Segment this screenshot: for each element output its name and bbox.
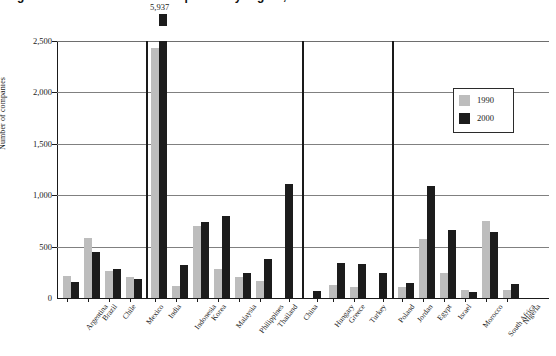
x-tick-south-africa (486, 299, 487, 302)
legend-swatch-1990-icon (459, 95, 470, 106)
bar-2000-india-overflow-stub (159, 14, 167, 26)
x-tick-chile (109, 299, 110, 302)
x-tick-china (289, 299, 290, 302)
x-tick-philippines (239, 299, 240, 302)
x-tick-argentina (67, 299, 68, 302)
x-tick-poland (383, 299, 384, 302)
x-label-malaysia: Malaysia (235, 303, 258, 330)
x-label-egypt: Egypt (436, 303, 453, 322)
x-tick-jordan (402, 299, 403, 302)
x-label-india: India (167, 303, 183, 320)
x-tick-brazil (88, 299, 89, 302)
bar-break-marker-india (157, 26, 169, 30)
x-tick-nigeria (507, 299, 508, 302)
legend-swatch-2000-icon (459, 113, 470, 124)
x-tick-israel (444, 299, 445, 302)
x-tick-greece (333, 299, 334, 302)
x-label-israel: Israel (456, 303, 473, 321)
x-tick-malaysia (218, 299, 219, 302)
x-tick-egypt (423, 299, 424, 302)
x-label-mexico: Mexico (145, 303, 166, 326)
x-tick-korea (197, 299, 198, 302)
india-2000-value-label: 5,937 (150, 3, 169, 12)
x-label-morocco: Morocco (482, 303, 505, 330)
x-label-nigeria: Nigeria (522, 303, 542, 326)
x-label-china: China (302, 303, 319, 322)
legend-label-1990: 1990 (477, 96, 494, 105)
x-label-poland: Poland (397, 303, 416, 325)
x-label-jordan: Jordan (416, 303, 435, 324)
legend-label-2000: 2000 (477, 114, 494, 123)
x-tick-india (155, 299, 156, 302)
legend: 1990 2000 (453, 88, 514, 133)
x-axis-labels: Argentina Brazil Chile Mexico India Indo… (0, 0, 556, 356)
x-label-chile: Chile (121, 303, 137, 321)
x-tick-hungary (317, 299, 318, 302)
x-label-turkey: Turkey (368, 303, 388, 325)
x-tick-turkey (354, 299, 355, 302)
x-tick-thailand (260, 299, 261, 302)
